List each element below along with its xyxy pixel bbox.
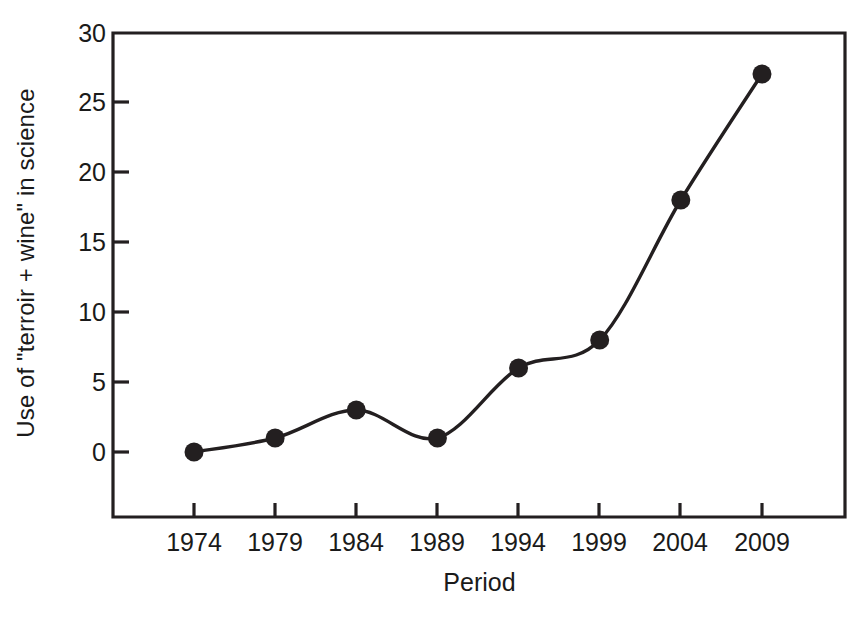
x-tick-label: 1989	[392, 530, 482, 555]
data-point-marker	[509, 359, 528, 378]
x-tick-label: 1994	[473, 530, 563, 555]
data-point-marker	[266, 429, 285, 448]
data-point-marker	[752, 65, 771, 84]
x-tick-label: 1979	[230, 530, 320, 555]
data-series-line	[194, 74, 762, 452]
x-tick-label: 1974	[149, 530, 239, 555]
data-point-marker	[671, 191, 690, 210]
x-axis-ticks	[194, 503, 762, 517]
x-tick-label: 2004	[635, 530, 725, 555]
chart-figure: Use of "terroir + wine" in science 0 5 1…	[0, 0, 861, 619]
y-axis-ticks	[113, 102, 129, 452]
x-tick-label: 1984	[311, 530, 401, 555]
data-point-marker	[185, 443, 204, 462]
x-axis-tick-labels: 1974 1979 1984 1989 1994 1999 2004 2009	[0, 530, 861, 564]
x-tick-label: 1999	[554, 530, 644, 555]
plot-area	[0, 0, 861, 619]
data-point-marker	[428, 429, 447, 448]
data-point-marker	[347, 401, 366, 420]
data-series-markers	[185, 65, 772, 462]
x-tick-label: 2009	[717, 530, 807, 555]
x-axis-title: Period	[113, 568, 846, 597]
axis-frame	[113, 33, 845, 517]
data-point-marker	[590, 331, 609, 350]
